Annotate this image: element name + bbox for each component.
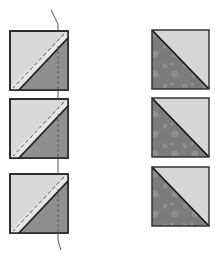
right-column-hst-units	[152, 30, 209, 226]
hst-unit-2	[152, 98, 209, 157]
left-column-sewn-pairs	[10, 10, 68, 250]
hst-unit-1	[152, 30, 209, 89]
sewn-pair-1	[10, 31, 68, 90]
sewn-pair-2	[10, 99, 68, 158]
hst-unit-3	[152, 167, 209, 226]
hst-piecing-diagram	[0, 0, 215, 255]
sewn-pair-3	[10, 174, 68, 233]
